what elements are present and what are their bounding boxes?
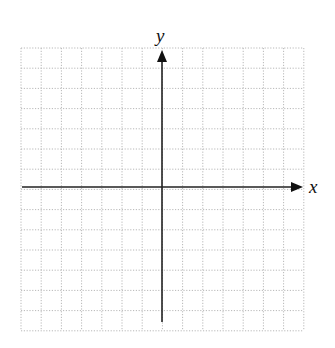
x-axis-label: x	[308, 176, 318, 197]
axes: x y	[22, 25, 318, 322]
y-axis-arrow-icon	[157, 50, 167, 62]
y-axis-label: y	[154, 25, 165, 46]
x-axis-arrow-icon	[291, 182, 303, 192]
coordinate-plane: x y	[0, 0, 335, 348]
